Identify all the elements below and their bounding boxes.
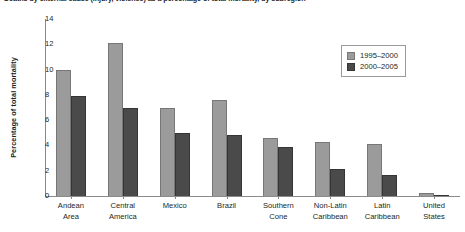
y-axis-tick-label: 4 — [45, 142, 52, 150]
y-axis-title: Percentage of total mortality — [6, 19, 20, 196]
bar[interactable] — [212, 100, 227, 196]
bar-group — [212, 19, 242, 196]
y-axis-tick-label: 8 — [45, 91, 52, 99]
bar[interactable] — [263, 138, 278, 196]
bar[interactable] — [227, 135, 242, 196]
legend-item[interactable]: 2000–2005 — [347, 61, 398, 72]
legend-label: 2000–2005 — [360, 62, 398, 71]
x-axis-tick-mark — [434, 196, 435, 199]
bar[interactable] — [123, 108, 138, 197]
bar-group — [160, 19, 190, 196]
bar[interactable] — [175, 133, 190, 196]
bar[interactable] — [382, 175, 397, 196]
bar-group — [108, 19, 138, 196]
y-axis-title-text: Percentage of total mortality — [9, 57, 18, 158]
bar-group — [263, 19, 293, 196]
figure-caption: Deaths by external cause (injury, violen… — [4, 0, 459, 3]
legend-swatch — [347, 63, 355, 71]
legend-label: 1995–2000 — [360, 51, 398, 60]
x-axis-tick-mark — [330, 196, 331, 199]
x-axis-tick-mark — [382, 196, 383, 199]
x-axis-tick-mark — [227, 196, 228, 199]
bar[interactable] — [434, 195, 449, 196]
legend-swatch — [347, 52, 355, 60]
x-axis-tick-mark — [123, 196, 124, 199]
y-axis-tick-label: 2 — [45, 167, 52, 175]
y-axis-tick-label: 6 — [45, 116, 52, 124]
x-axis-line — [45, 196, 460, 197]
chart-legend: 1995–20002000–2005 — [341, 45, 406, 77]
chart-figure: Deaths by external cause (injury, violen… — [0, 0, 465, 232]
x-axis-tick-mark — [175, 196, 176, 199]
bar[interactable] — [108, 43, 123, 196]
bar[interactable] — [367, 144, 382, 196]
bar[interactable] — [419, 193, 434, 196]
legend-item[interactable]: 1995–2000 — [347, 50, 398, 61]
bar[interactable] — [330, 169, 345, 196]
bar[interactable] — [56, 70, 71, 196]
bar-group — [56, 19, 86, 196]
y-axis-tick-label: 0 — [45, 192, 52, 200]
x-axis-label: United States — [402, 201, 465, 222]
bar[interactable] — [315, 142, 330, 196]
y-axis-tick-label: 12 — [45, 41, 56, 49]
bar[interactable] — [71, 96, 86, 196]
bar[interactable] — [278, 147, 293, 196]
y-axis-tick-label: 14 — [45, 15, 56, 23]
x-axis-tick-mark — [278, 196, 279, 199]
bar[interactable] — [160, 108, 175, 197]
bar-group — [419, 19, 449, 196]
y-axis-tick-label: 10 — [45, 66, 56, 74]
x-axis-tick-mark — [71, 196, 72, 199]
